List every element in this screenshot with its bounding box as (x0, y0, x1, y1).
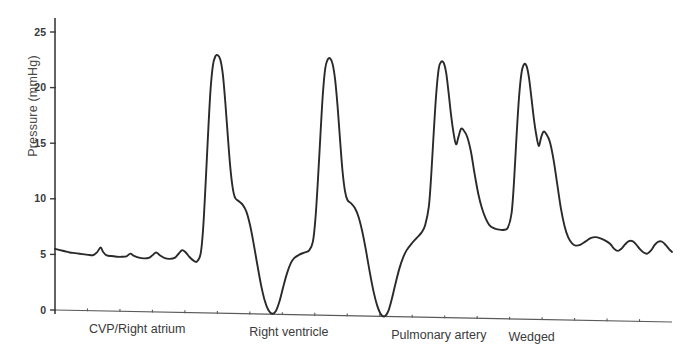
pressure-waveform-figure: Pressure (mmHg) 0510152025CVP/Right atri… (0, 0, 686, 355)
waveform-plot: 0510152025CVP/Right atriumRight ventricl… (0, 0, 686, 355)
y-axis-tick-label: 25 (34, 26, 46, 38)
x-axis-line (55, 310, 672, 322)
y-axis-ticks: 0510152025 (34, 26, 56, 316)
y-axis-tick-label: 20 (34, 81, 46, 93)
phase-label-cvp-right-atrium: CVP/Right atrium (89, 322, 186, 336)
y-axis-tick-label: 10 (34, 192, 46, 204)
phase-labels: CVP/Right atriumRight ventriclePulmonary… (89, 322, 555, 344)
y-axis-tick-label: 15 (34, 137, 46, 149)
y-axis-tick-label: 5 (40, 248, 46, 260)
phase-label-wedged: Wedged (508, 330, 554, 344)
phase-label-right-ventricle: Right ventricle (249, 325, 328, 339)
phase-label-pulmonary-artery: Pulmonary artery (391, 328, 487, 342)
pressure-trace-path (55, 55, 672, 317)
axes (55, 18, 672, 322)
y-axis-tick-label: 0 (40, 304, 46, 316)
